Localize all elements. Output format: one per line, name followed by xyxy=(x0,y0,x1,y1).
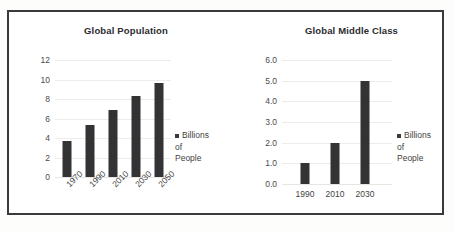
chart-global-middle-class: Global Middle Class 6.0 5.0 4.0 3.0 2.0 … xyxy=(237,12,442,213)
ytick-label: 4 xyxy=(45,133,50,143)
bar-series-global-population: 1970 1990 2010 2030 xyxy=(55,60,171,177)
scanned-page: Global Population 12 10 8 6 4 2 0 xyxy=(0,0,455,232)
bar-1970 xyxy=(62,141,71,177)
legend-entry: Billions xyxy=(397,130,431,142)
xtick-label: 1990 xyxy=(296,189,315,199)
ytick-label: 6.0 xyxy=(265,55,277,65)
legend-global-middle-class: Billions of People xyxy=(397,130,431,165)
bar-slot: 1970 xyxy=(55,60,78,177)
legend-label-line-1: Billions xyxy=(182,130,209,142)
legend-label-line-1: Billions xyxy=(404,130,431,142)
ytick-label: 2 xyxy=(45,153,50,163)
legend-entry: Billions xyxy=(175,130,209,142)
bar-slot: 2050 xyxy=(148,60,171,177)
bar-slot: 1990 xyxy=(290,60,320,184)
bar-2030 xyxy=(132,96,141,177)
ytick-label: 10 xyxy=(41,75,50,85)
plot-area-global-population: 12 10 8 6 4 2 0 1970 xyxy=(55,60,171,177)
legend-label-line-3: People xyxy=(397,153,431,165)
ytick-label: 2.0 xyxy=(265,138,277,148)
ytick-label: 5.0 xyxy=(265,76,277,86)
bar-1990 xyxy=(85,125,94,177)
ytick-label: 0.0 xyxy=(265,179,277,189)
legend-global-population: Billions of People xyxy=(175,130,209,165)
plot-area-global-middle-class: 6.0 5.0 4.0 3.0 2.0 1.0 0.0 1990 xyxy=(282,60,392,184)
page-frame: Global Population 12 10 8 6 4 2 0 xyxy=(7,10,444,215)
legend-label-line-2: of xyxy=(175,142,209,154)
legend-label-line-2: of xyxy=(397,142,431,154)
bar-1990 xyxy=(301,163,310,184)
bar-2050 xyxy=(155,83,164,177)
ytick-label: 8 xyxy=(45,94,50,104)
bar-slot: 1990 xyxy=(78,60,101,177)
bar-2010 xyxy=(108,110,117,177)
ytick-label: 4.0 xyxy=(265,96,277,106)
legend-label-line-3: People xyxy=(175,153,209,165)
chart-title-global-population: Global Population xyxy=(15,25,231,36)
bar-series-global-middle-class: 1990 2010 2030 xyxy=(282,60,392,184)
xtick-label: 2030 xyxy=(356,189,375,199)
bar-slot: 2030 xyxy=(350,60,380,184)
bar-slot: 2010 xyxy=(101,60,124,177)
legend-swatch-icon xyxy=(175,134,179,138)
ytick-label: 1.0 xyxy=(265,158,277,168)
ytick-label: 0 xyxy=(45,172,50,182)
bar-2010 xyxy=(331,143,340,184)
bar-2030 xyxy=(361,81,370,184)
xtick-label: 2010 xyxy=(326,189,345,199)
bar-slot: 2030 xyxy=(125,60,148,177)
ytick-label: 3.0 xyxy=(265,117,277,127)
chart-title-global-middle-class: Global Middle Class xyxy=(237,25,454,36)
bar-slot: 2010 xyxy=(320,60,350,184)
gridline-baseline xyxy=(282,184,392,185)
chart-global-population: Global Population 12 10 8 6 4 2 0 xyxy=(15,12,225,213)
legend-swatch-icon xyxy=(397,134,401,138)
ytick-label: 12 xyxy=(41,55,50,65)
ytick-label: 6 xyxy=(45,114,50,124)
